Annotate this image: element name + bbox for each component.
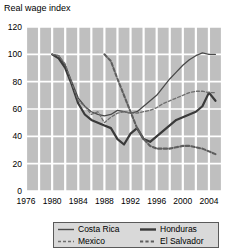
legend-swatch-solid-thick-icon	[140, 226, 156, 233]
legend-swatch-dashed-thin-icon	[58, 238, 74, 245]
x-tick-label: 2004	[199, 196, 218, 206]
x-tick-label: 1988	[95, 196, 114, 206]
x-tick-label: 2000	[173, 196, 192, 206]
x-tick-label: 1996	[147, 196, 166, 206]
y-tick-label: 120	[8, 22, 22, 32]
x-tick-label: 1984	[69, 196, 88, 206]
y-tick-label: 80	[13, 77, 23, 87]
legend-label-mexico: Mexico	[78, 237, 105, 246]
x-tick-label: 1976	[17, 196, 36, 206]
legend-item-el-salvador: El Salvador	[136, 237, 218, 246]
legend-item-honduras: Honduras	[136, 225, 218, 234]
legend-swatch-dashed-thick-icon	[140, 238, 156, 245]
x-axis-tick-labels: 19761980198419881992199620002004	[17, 196, 219, 206]
x-tick-label: 1992	[121, 196, 140, 206]
legend-swatch-solid-thin-icon	[58, 226, 74, 233]
legend-label-honduras: Honduras	[160, 225, 197, 234]
y-tick-label: 40	[13, 131, 23, 141]
y-tick-label: 20	[13, 159, 23, 169]
legend-item-costa-rica: Costa Rica	[54, 225, 136, 234]
x-tick-label: 1980	[43, 196, 62, 206]
y-tick-label: 100	[8, 49, 22, 59]
y-tick-label: 0	[17, 186, 22, 196]
y-tick-label: 60	[13, 104, 23, 114]
y-axis-tick-labels: 020406080100120	[8, 22, 22, 196]
chart-plot-area: 020406080100120 197619801984198819921996…	[0, 0, 228, 222]
legend-item-mexico: Mexico	[54, 237, 136, 246]
chart-root: Real wage index 020406080100120 19761980…	[0, 0, 228, 249]
chart-legend: Costa Rica Honduras Mexico El Salvador	[53, 222, 219, 248]
legend-label-costa-rica: Costa Rica	[78, 225, 120, 234]
legend-label-el-salvador: El Salvador	[160, 237, 203, 246]
